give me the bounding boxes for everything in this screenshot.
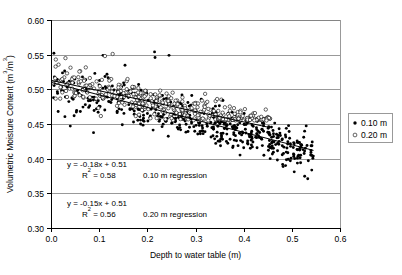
data-point <box>275 133 278 136</box>
data-point <box>288 130 291 133</box>
data-point <box>306 144 309 147</box>
data-point <box>187 130 190 133</box>
data-point <box>151 104 154 107</box>
data-point <box>149 92 152 95</box>
data-point <box>271 145 274 148</box>
data-point <box>302 136 305 139</box>
data-point <box>111 85 114 88</box>
data-point <box>296 157 299 160</box>
data-point <box>299 143 302 146</box>
data-point <box>271 153 274 156</box>
data-point <box>218 104 221 107</box>
data-point <box>203 105 206 108</box>
data-point <box>273 122 276 125</box>
x-tick-label: 0.3 <box>191 234 203 244</box>
x-tick-label: 0.6 <box>335 234 347 244</box>
data-point <box>260 115 263 118</box>
data-point <box>95 80 98 83</box>
data-point <box>290 157 293 160</box>
data-point <box>158 89 161 92</box>
data-point <box>88 96 91 99</box>
data-point <box>216 131 219 134</box>
data-point <box>257 130 260 133</box>
data-point <box>94 97 97 100</box>
data-point <box>262 130 265 133</box>
data-point <box>167 107 170 110</box>
data-point <box>232 106 235 109</box>
data-point <box>284 134 287 137</box>
y-tick-label: 0.30 <box>27 224 44 234</box>
data-point <box>63 115 66 118</box>
data-point <box>293 157 296 160</box>
data-point <box>215 135 218 138</box>
data-point <box>104 93 107 96</box>
data-point <box>104 85 107 88</box>
data-point <box>249 147 252 150</box>
data-point <box>77 75 80 78</box>
data-point <box>229 138 232 141</box>
data-point <box>196 106 199 109</box>
data-point <box>169 97 172 100</box>
data-point <box>137 86 140 89</box>
data-point <box>247 143 250 146</box>
data-point <box>192 125 195 128</box>
y-tick-label: 0.40 <box>27 155 44 165</box>
data-point <box>234 126 237 129</box>
data-point <box>298 149 301 152</box>
data-point <box>125 87 128 90</box>
data-point <box>225 140 228 143</box>
data-point <box>79 80 82 83</box>
data-point <box>213 137 216 140</box>
data-point <box>246 139 249 142</box>
data-point <box>276 149 279 152</box>
data-point <box>198 124 201 127</box>
data-point <box>71 81 74 84</box>
data-point <box>228 109 231 112</box>
data-point <box>299 156 302 159</box>
data-point <box>239 111 242 114</box>
data-point <box>253 119 256 122</box>
data-point <box>248 118 251 121</box>
data-point <box>193 130 196 133</box>
data-point <box>270 126 273 129</box>
data-point <box>231 125 234 128</box>
data-point <box>249 114 252 117</box>
data-point <box>296 162 299 165</box>
data-point <box>175 111 178 114</box>
data-point <box>281 137 284 140</box>
data-point <box>229 122 232 125</box>
data-point <box>69 66 72 69</box>
data-point-outlier <box>111 52 114 55</box>
legend-label: 0.20 m <box>361 130 387 140</box>
data-point <box>274 143 277 146</box>
data-point-outlier <box>54 58 57 61</box>
data-point <box>250 136 253 139</box>
data-point <box>299 161 302 164</box>
data-point-outlier <box>168 54 171 57</box>
data-point <box>278 132 281 135</box>
data-point <box>108 79 111 82</box>
data-point <box>113 94 116 97</box>
data-point <box>132 121 135 124</box>
data-point <box>88 99 91 102</box>
data-point <box>117 90 120 93</box>
data-point <box>176 102 179 105</box>
data-point <box>310 144 313 147</box>
data-point <box>303 130 306 133</box>
legend-marker-open-circle <box>353 133 357 137</box>
data-point <box>153 113 156 116</box>
data-point <box>118 107 121 110</box>
data-point <box>57 110 60 113</box>
data-point <box>159 115 162 118</box>
data-point <box>64 89 67 92</box>
data-point <box>146 112 149 115</box>
data-point <box>285 158 288 161</box>
data-point <box>142 119 145 122</box>
data-point-outlier <box>103 54 106 57</box>
data-point-outlier <box>52 52 55 55</box>
data-point <box>281 153 284 156</box>
data-point <box>305 124 308 127</box>
data-point <box>196 114 199 117</box>
data-point <box>297 154 300 157</box>
x-tick-label: 0.2 <box>142 234 154 244</box>
